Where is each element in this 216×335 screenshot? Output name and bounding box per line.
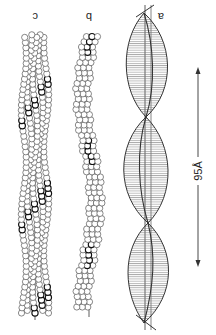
actin-filament-figure: a b c 95Å	[0, 0, 216, 335]
subunit-bead	[29, 32, 35, 38]
panel-b-label: b	[86, 11, 92, 23]
ribbon-lobe-1	[128, 223, 169, 323]
panel-c-label: c	[32, 11, 38, 23]
scale-bar-label: 95Å	[192, 161, 204, 181]
panel-a-label: a	[157, 11, 164, 23]
ribbon-lobe-3	[126, 13, 167, 117]
panel-b-subunits	[73, 34, 106, 311]
arrow-down-icon	[196, 67, 201, 74]
panel-c-beads: c	[18, 11, 52, 320]
panel-b-beads: b	[73, 11, 106, 317]
subunit-bead	[22, 34, 28, 40]
ribbon-lobe-2	[124, 117, 168, 223]
arrow-up-icon	[196, 260, 201, 267]
panel-a-ribbon: a	[124, 5, 169, 330]
scale-bar: 95Å	[192, 67, 204, 267]
panel-c-subunits	[18, 32, 52, 316]
subunit-bead	[94, 34, 100, 40]
